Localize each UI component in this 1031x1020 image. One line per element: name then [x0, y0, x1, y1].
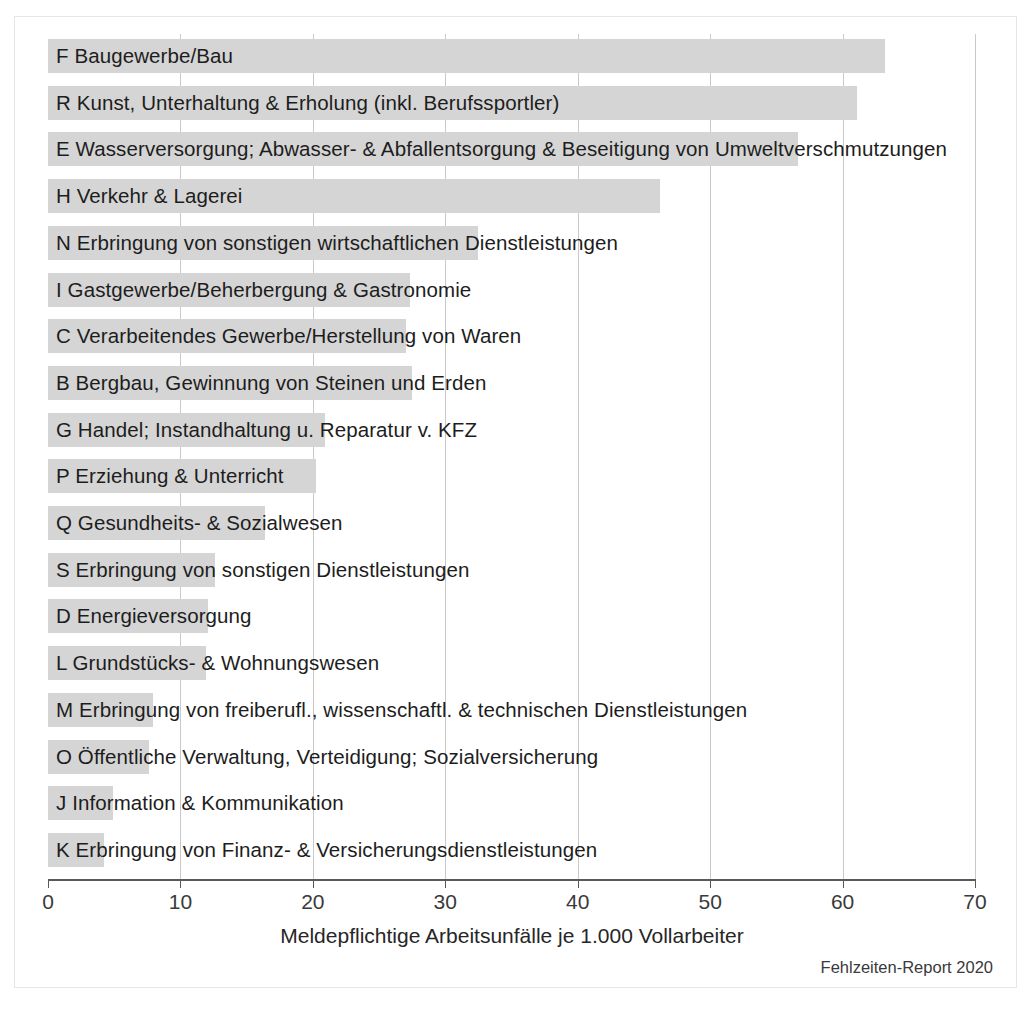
- x-axis-tick: [578, 879, 579, 888]
- x-axis-tick-label: 0: [42, 890, 54, 914]
- x-axis-tick-label: 20: [301, 890, 324, 914]
- bar-row: K Erbringung von Finanz- & Versicherungs…: [48, 833, 975, 867]
- bar-category-label: S Erbringung von sonstigen Dienstleistun…: [56, 558, 469, 582]
- bar-category-label: N Erbringung von sonstigen wirtschaftlic…: [56, 231, 618, 255]
- bar-category-label: D Energieversorgung: [56, 604, 252, 628]
- gridline: [975, 34, 976, 879]
- bar-row: S Erbringung von sonstigen Dienstleistun…: [48, 553, 975, 587]
- x-axis-tick: [843, 879, 844, 888]
- figure-container: F Baugewerbe/BauR Kunst, Unterhaltung & …: [0, 0, 1031, 1020]
- x-axis-tick: [180, 879, 181, 888]
- x-axis-tick-label: 70: [963, 890, 986, 914]
- bar-row: N Erbringung von sonstigen wirtschaftlic…: [48, 226, 975, 260]
- bar-category-label: Q Gesundheits- & Sozialwesen: [56, 511, 343, 535]
- bar-category-label: C Verarbeitendes Gewerbe/Herstellung von…: [56, 324, 521, 348]
- bar-category-label: B Bergbau, Gewinnung von Steinen und Erd…: [56, 371, 486, 395]
- bar-row: I Gastgewerbe/Beherbergung & Gastronomie: [48, 273, 975, 307]
- source-note: Fehlzeiten-Report 2020: [821, 958, 993, 977]
- x-axis-tick-label: 30: [434, 890, 457, 914]
- bar-row: H Verkehr & Lagerei: [48, 179, 975, 213]
- bar-category-label: F Baugewerbe/Bau: [56, 44, 233, 68]
- x-axis-label: Meldepflichtige Arbeitsunfälle je 1.000 …: [48, 924, 976, 948]
- x-axis-tick-label: 50: [698, 890, 721, 914]
- x-axis-line: [48, 879, 976, 881]
- x-axis-tick: [48, 879, 49, 888]
- bar-category-label: E Wasserversorgung; Abwasser- & Abfallen…: [56, 137, 947, 161]
- bar-row: R Kunst, Unterhaltung & Erholung (inkl. …: [48, 86, 975, 120]
- plot-area: F Baugewerbe/BauR Kunst, Unterhaltung & …: [48, 34, 975, 879]
- bar-row: O Öffentliche Verwaltung, Verteidigung; …: [48, 740, 975, 774]
- bar-row: B Bergbau, Gewinnung von Steinen und Erd…: [48, 366, 975, 400]
- bar-row: P Erziehung & Unterricht: [48, 459, 975, 493]
- bar-category-label: M Erbringung von freiberufl., wissenscha…: [56, 698, 747, 722]
- bar-category-label: J Information & Kommunikation: [56, 791, 344, 815]
- bar-category-label: I Gastgewerbe/Beherbergung & Gastronomie: [56, 278, 471, 302]
- bar-category-label: K Erbringung von Finanz- & Versicherungs…: [56, 838, 597, 862]
- bar-row: M Erbringung von freiberufl., wissenscha…: [48, 693, 975, 727]
- bar-category-label: O Öffentliche Verwaltung, Verteidigung; …: [56, 745, 598, 769]
- bar-category-label: R Kunst, Unterhaltung & Erholung (inkl. …: [56, 91, 559, 115]
- bar-row: D Energieversorgung: [48, 599, 975, 633]
- bar-category-label: L Grundstücks- & Wohnungswesen: [56, 651, 379, 675]
- x-axis-tick: [710, 879, 711, 888]
- bar-row: Q Gesundheits- & Sozialwesen: [48, 506, 975, 540]
- bar-category-label: H Verkehr & Lagerei: [56, 184, 243, 208]
- x-axis-tick: [313, 879, 314, 888]
- x-axis-tick: [975, 879, 976, 888]
- bar-row: J Information & Kommunikation: [48, 786, 975, 820]
- bar-category-label: G Handel; Instandhaltung u. Reparatur v.…: [56, 418, 477, 442]
- bar-row: F Baugewerbe/Bau: [48, 39, 975, 73]
- bar-row: E Wasserversorgung; Abwasser- & Abfallen…: [48, 132, 975, 166]
- bar-row: G Handel; Instandhaltung u. Reparatur v.…: [48, 413, 975, 447]
- bar-row: C Verarbeitendes Gewerbe/Herstellung von…: [48, 319, 975, 353]
- x-axis-tick-label: 60: [831, 890, 854, 914]
- x-axis-tick: [445, 879, 446, 888]
- bar-category-label: P Erziehung & Unterricht: [56, 464, 284, 488]
- x-axis-tick-label: 40: [566, 890, 589, 914]
- bar-row: L Grundstücks- & Wohnungswesen: [48, 646, 975, 680]
- x-axis-tick-label: 10: [169, 890, 192, 914]
